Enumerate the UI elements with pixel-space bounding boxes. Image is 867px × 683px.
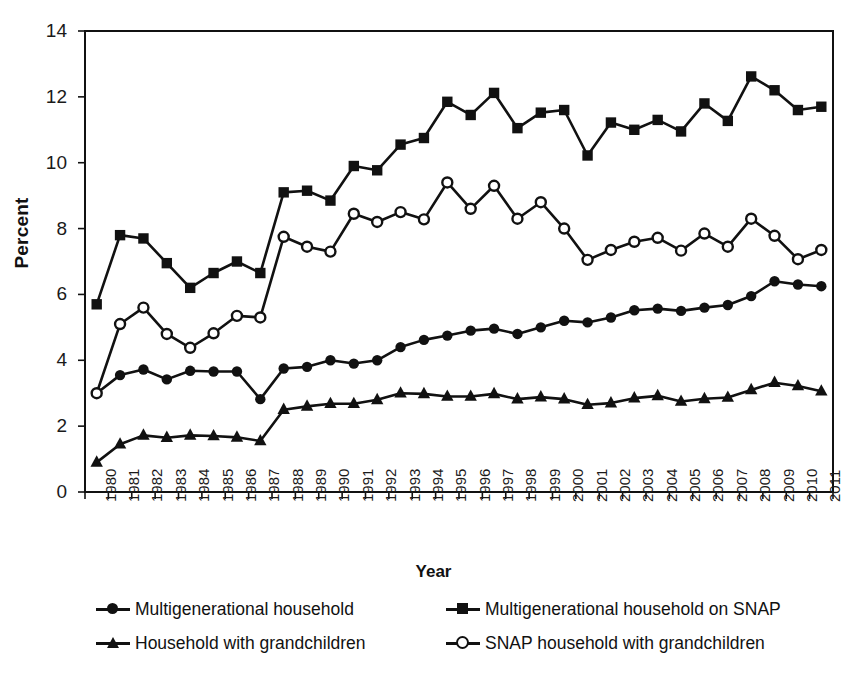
x-axis-tick-label: 1981 [126,469,141,502]
series-4 [92,177,827,398]
data-point [676,246,686,256]
x-axis-tick-label: 2009 [781,469,796,502]
data-point [582,150,592,160]
x-axis-tick-label: 1988 [290,469,305,502]
series-line [97,383,822,463]
data-point [278,363,288,373]
data-point [349,358,359,368]
data-point [302,242,312,252]
y-axis-tick-label: 0 [33,482,67,501]
data-point [723,300,733,310]
data-point [816,102,826,112]
y-axis-tick-label: 2 [33,416,67,435]
data-point [138,233,148,243]
x-axis-tick-label: 2006 [710,469,725,502]
data-point [559,316,569,326]
data-point [465,325,475,335]
legend-entry[interactable]: SNAP household with grandchildren [446,633,856,654]
data-point [652,303,662,313]
data-point [115,370,125,380]
data-point [512,214,522,224]
data-point [489,323,499,333]
data-point [488,387,500,398]
y-axis-tick-label: 8 [33,219,67,238]
data-point [91,299,101,309]
x-axis-tick-label: 2005 [687,469,702,502]
data-point [138,364,148,374]
legend-label: Multigenerational household on SNAP [485,599,781,620]
x-axis-tick-label: 2000 [570,469,585,502]
x-axis-tick-label: 1993 [407,469,422,502]
x-axis-tick-label: 1983 [173,469,188,502]
data-point [278,187,288,197]
data-point [816,245,826,255]
data-point [396,207,406,217]
series-3 [90,376,827,467]
data-point [232,366,242,376]
data-point [536,107,546,117]
legend-label: Household with grandchildren [135,633,366,654]
data-point [325,195,335,205]
data-point [302,362,312,372]
data-point [162,374,172,384]
data-point [162,329,172,339]
data-point [90,455,102,466]
x-axis-tick-label: 1992 [383,469,398,502]
data-point [746,291,756,301]
data-point [512,123,522,133]
data-point [324,397,336,408]
data-point [559,224,569,234]
data-point [583,255,593,265]
data-point [372,217,382,227]
x-axis-tick-label: 1984 [196,469,211,502]
data-point [419,335,429,345]
data-point [606,245,616,255]
x-axis-tick-label: 2001 [594,469,609,502]
x-axis-tick-label: 1986 [243,469,258,502]
data-point [793,105,803,115]
data-point [676,126,686,136]
data-point [536,197,546,207]
data-point [372,165,382,175]
data-point [255,312,265,322]
data-point [209,328,219,338]
x-axis-tick-label: 1999 [547,469,562,502]
legend-marker-triangle-filled-icon [96,635,130,651]
data-point [582,317,592,327]
x-axis-tick-label: 1995 [453,469,468,502]
x-axis-tick-label: 1985 [220,469,235,502]
data-point [279,232,289,242]
plot-frame [85,31,833,492]
legend-entry[interactable]: Multigenerational household on SNAP [446,599,856,620]
data-point [793,254,803,264]
y-axis-title: Percent [11,173,33,293]
data-point [232,311,242,321]
data-point [699,302,709,312]
x-axis-tick-label: 1991 [360,469,375,502]
x-axis-tick-label: 1989 [313,469,328,502]
data-point [419,133,429,143]
data-point [92,388,102,398]
data-point [442,330,452,340]
data-point [325,355,335,365]
data-point [255,268,265,278]
chart-legend: Multigenerational householdMultigenerati… [96,592,856,660]
legend-entry[interactable]: Multigenerational household [96,599,446,620]
data-point [442,97,452,107]
x-axis-tick-label: 2007 [734,469,749,502]
data-point [629,237,639,247]
x-axis-tick-label: 2002 [617,469,632,502]
data-point [559,105,569,115]
legend-entry[interactable]: Household with grandchildren [96,633,446,654]
data-point [746,214,756,224]
data-point [349,209,359,219]
data-point [489,181,499,191]
x-axis-tick-label: 2004 [664,469,679,502]
series-line [97,76,822,304]
x-axis-tick-label: 1980 [103,469,118,502]
data-point [768,376,780,387]
data-point [699,98,709,108]
series-2 [91,71,826,309]
x-axis-title: Year [0,562,867,582]
x-axis-tick-label: 1990 [336,469,351,502]
